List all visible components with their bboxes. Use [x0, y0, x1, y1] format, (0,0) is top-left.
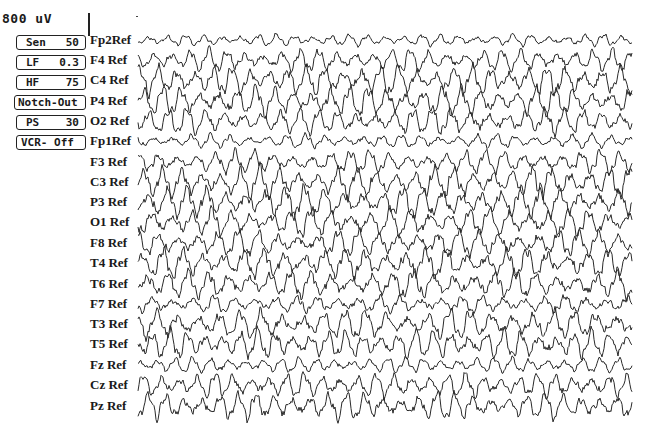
- eeg-trace: [138, 295, 632, 315]
- eeg-trace: [138, 246, 632, 280]
- eeg-trace: [138, 372, 632, 400]
- eeg-trace: [138, 147, 632, 175]
- eeg-trace: [138, 326, 632, 361]
- eeg-trace: [138, 33, 632, 47]
- eeg-trace: [138, 228, 632, 259]
- eeg-waveform-area[interactable]: [0, 0, 645, 434]
- eeg-trace: [138, 306, 632, 341]
- eeg-trace: [138, 106, 632, 137]
- eeg-trace: [138, 83, 632, 118]
- eeg-trace: [138, 356, 632, 373]
- eeg-trace: [138, 205, 632, 237]
- eeg-trace: [138, 132, 632, 149]
- eeg-trace: [138, 46, 632, 73]
